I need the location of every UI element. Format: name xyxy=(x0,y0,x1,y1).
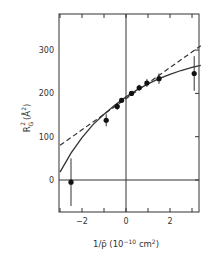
y-tick-label: 200 xyxy=(39,89,54,98)
chart: −2020100200300 1/p̄ (10−10 cm2) RG2(Å2) xyxy=(0,0,209,259)
x-tick-label: 2 xyxy=(167,217,172,226)
data-point xyxy=(156,76,161,81)
data-point xyxy=(115,104,120,109)
x-tick-label: 0 xyxy=(123,217,128,226)
fit-lines xyxy=(60,46,201,172)
solid-fit-curve xyxy=(60,65,201,172)
axis-ticks xyxy=(60,14,199,212)
plot-frame xyxy=(59,14,199,212)
data-point xyxy=(119,98,124,103)
data-point xyxy=(144,80,149,85)
y-axis-label: RG2(Å2) xyxy=(19,104,34,133)
x-axis-label: 1/p̄ (10−10 cm2) xyxy=(93,238,159,249)
data-point xyxy=(104,118,109,123)
y-tick-label: 0 xyxy=(49,176,54,185)
data-point xyxy=(68,180,73,185)
svg-text:RG2(Å2): RG2(Å2) xyxy=(19,104,34,133)
data-point xyxy=(192,71,197,76)
y-tick-label: 100 xyxy=(39,133,54,142)
reference-lines xyxy=(59,14,199,212)
plot-border xyxy=(59,14,199,212)
x-tick-label: −2 xyxy=(76,217,88,226)
y-tick-label: 300 xyxy=(39,46,54,55)
data-point xyxy=(129,91,134,96)
data-point xyxy=(137,85,142,90)
